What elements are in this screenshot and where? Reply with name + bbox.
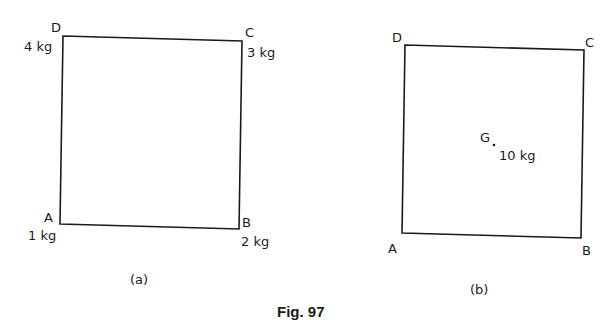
panel-a-sublabel: (a) <box>130 272 148 287</box>
panel-b: D C A B G 10 kg (b) <box>388 30 594 297</box>
vertex-label-c: C <box>585 35 594 50</box>
vertex-label-d: D <box>392 30 402 45</box>
centroid-mass-label: 10 kg <box>499 148 535 163</box>
figure-caption: Fig. 97 <box>277 303 325 320</box>
vertex-label-b: B <box>242 215 251 230</box>
square-abcd-a <box>60 36 242 229</box>
mass-label-c: 3 kg <box>247 45 275 60</box>
mass-label-a: 1 kg <box>28 228 56 243</box>
vertex-label-c: C <box>245 25 254 40</box>
vertex-label-d: D <box>51 20 61 35</box>
centroid-point <box>493 144 496 147</box>
square-abcd-b <box>402 45 584 238</box>
panel-b-sublabel: (b) <box>470 282 488 297</box>
vertex-label-b: B <box>582 243 591 258</box>
centroid-label: G <box>480 130 490 145</box>
panel-a: D 4 kg C 3 kg A 1 kg B 2 kg (a) <box>24 20 275 287</box>
vertex-label-a: A <box>44 210 53 225</box>
vertex-label-a: A <box>388 241 397 256</box>
mass-label-d: 4 kg <box>24 39 52 54</box>
figure-canvas: D 4 kg C 3 kg A 1 kg B 2 kg (a) D C A B … <box>0 0 613 329</box>
mass-label-b: 2 kg <box>241 234 269 249</box>
